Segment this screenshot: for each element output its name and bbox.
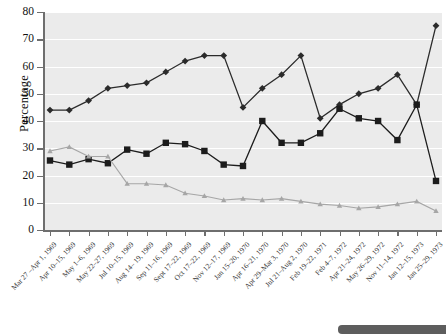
data-point [336, 106, 342, 112]
data-point [182, 58, 189, 65]
bottom-right-bar [338, 325, 446, 334]
data-point [220, 52, 227, 59]
data-point [143, 79, 150, 86]
data-point [143, 151, 149, 157]
data-point [124, 146, 130, 152]
data-point [66, 107, 73, 114]
data-point [433, 22, 440, 29]
series-line [50, 105, 436, 181]
data-point [317, 130, 323, 136]
data-point [182, 141, 188, 147]
data-point [356, 115, 362, 121]
data-point [85, 97, 92, 104]
data-point [355, 90, 362, 97]
data-point [163, 140, 169, 146]
chart-container: Percentage 01020304050607080 Mar 27 –Apr… [0, 0, 446, 336]
data-point [240, 163, 246, 169]
data-point [394, 137, 400, 143]
data-point [298, 140, 304, 146]
data-point [162, 69, 169, 76]
data-point [433, 208, 438, 213]
data-point [47, 107, 54, 114]
data-series-layer [0, 0, 446, 336]
data-point [375, 118, 381, 124]
data-point [105, 160, 111, 166]
data-point [67, 144, 72, 149]
series-triangle [47, 144, 438, 213]
series-diamond [47, 22, 440, 121]
data-point [47, 157, 53, 163]
data-point [278, 140, 284, 146]
data-point [221, 161, 227, 167]
data-point [201, 148, 207, 154]
data-point [124, 82, 131, 89]
data-point [66, 161, 72, 167]
data-point [433, 178, 439, 184]
data-point [201, 52, 208, 59]
data-point [414, 101, 420, 107]
series-square [47, 101, 439, 184]
data-point [259, 118, 265, 124]
data-point [105, 85, 112, 92]
